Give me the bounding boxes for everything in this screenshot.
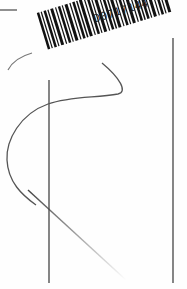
s-curve xyxy=(7,63,122,205)
barcode-icon xyxy=(37,0,171,49)
scanned-page: D0717144 xyxy=(0,0,187,289)
arc-stroke xyxy=(8,53,32,70)
page-drawing xyxy=(0,0,187,289)
diagonal-stroke xyxy=(28,190,126,280)
